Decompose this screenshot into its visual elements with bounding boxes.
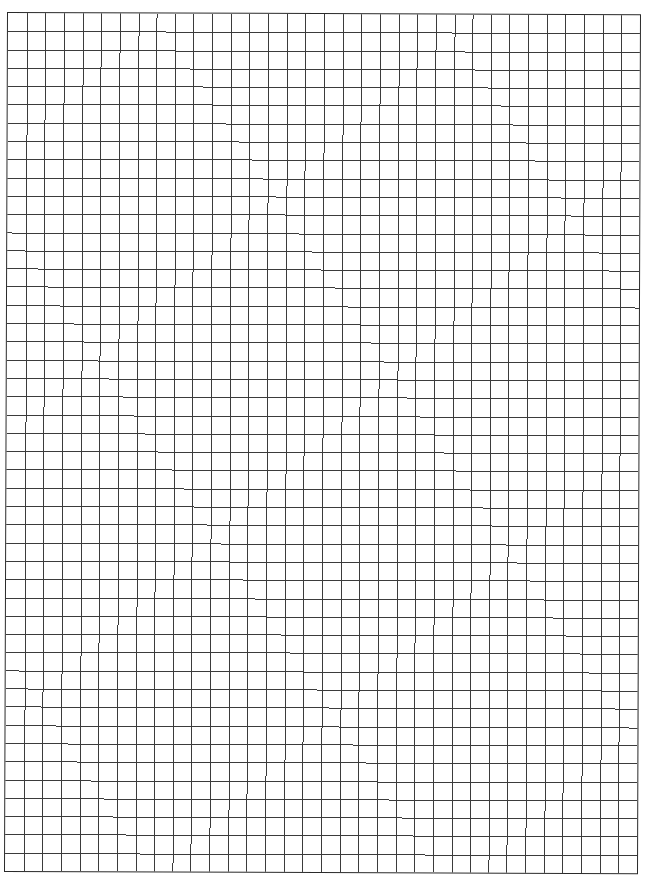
vertical-grid-line (173, 14, 176, 872)
vertical-grid-line (80, 13, 83, 871)
grid-lines (5, 13, 640, 873)
vertical-grid-line (61, 13, 64, 871)
vertical-grid-line (563, 15, 566, 873)
vertical-grid-line (470, 15, 473, 873)
graph-paper-grid (4, 12, 641, 874)
vertical-grid-line (154, 14, 157, 872)
